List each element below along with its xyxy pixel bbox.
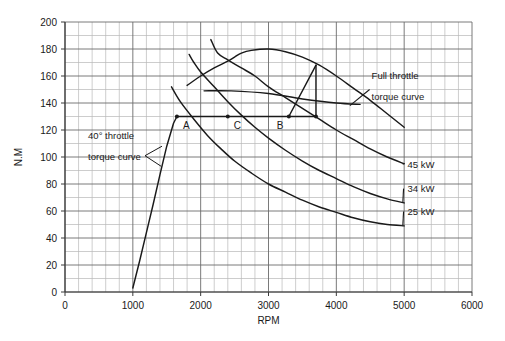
marker-point-b (287, 115, 291, 119)
marker-point (314, 115, 318, 119)
y-tick-label: 20 (46, 260, 58, 271)
leader-line-power (403, 164, 404, 165)
point-label-a: A (183, 120, 190, 131)
leader-line-power (403, 212, 404, 226)
torque-map-figure: 0100020003000400050006000020406080100120… (0, 0, 505, 341)
y-tick-label: 180 (40, 44, 57, 55)
y-tick-label: 80 (46, 179, 58, 190)
marker-point-a (175, 115, 179, 119)
power-label-p34: 34 kW (408, 183, 435, 194)
marker-point-c (226, 115, 230, 119)
x-tick-label: 5000 (393, 300, 416, 311)
y-tick-label: 60 (46, 206, 58, 217)
y-tick-label: 200 (40, 17, 57, 28)
power-label-p25: 25 kW (408, 206, 435, 217)
chart-container: 0100020003000400050006000020406080100120… (0, 0, 505, 341)
y-tick-label: 140 (40, 98, 57, 109)
y-axis-title: N.M (13, 148, 24, 166)
full-throttle-label-line1: Full throttle (372, 70, 419, 81)
x-tick-label: 6000 (461, 300, 484, 311)
x-tick-label: 2000 (190, 300, 213, 311)
forty-throttle-label-line2: torque curve (88, 151, 141, 162)
power-label-p45: 45 kW (408, 159, 435, 170)
leader-line-power (403, 189, 404, 203)
y-tick-label: 100 (40, 152, 57, 163)
point-label-c: C (234, 120, 241, 131)
x-axis-title: RPM (257, 315, 279, 326)
y-tick-label: 40 (46, 233, 58, 244)
x-tick-label: 1000 (122, 300, 145, 311)
x-tick-label: 4000 (325, 300, 348, 311)
x-tick-label: 3000 (257, 300, 280, 311)
x-tick-label: 0 (62, 300, 68, 311)
full-throttle-label-line2: torque curve (372, 91, 425, 102)
forty-throttle-label-line1: 40° throttle (88, 130, 134, 141)
y-tick-label: 120 (40, 125, 57, 136)
y-tick-label: 160 (40, 71, 57, 82)
y-tick-label: 0 (51, 287, 57, 298)
point-label-b: B (277, 120, 284, 131)
